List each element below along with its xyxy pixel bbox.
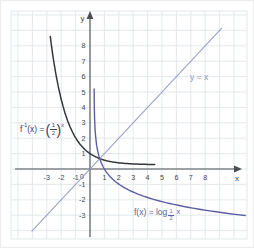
svg-text:x: x [235, 174, 239, 183]
svg-text:-2: -2 [79, 195, 85, 204]
svg-text:-1: -1 [72, 173, 78, 182]
log-base-one-half: 12 [168, 209, 174, 222]
svg-text:3: 3 [82, 118, 86, 127]
label-identity-line: y = x [190, 73, 208, 82]
svg-text:-3: -3 [44, 173, 50, 182]
svg-text:-3: -3 [79, 211, 85, 220]
svg-text:1: 1 [82, 149, 86, 158]
graph-figure: -3-2-11234567887654321-1-2-30xy f-1(x) =… [0, 0, 254, 248]
svg-text:6: 6 [174, 173, 178, 182]
log-argument: x [177, 207, 181, 216]
svg-text:5: 5 [82, 88, 86, 97]
svg-text:8: 8 [82, 41, 86, 50]
svg-text:4: 4 [82, 103, 86, 112]
svg-text:4: 4 [146, 173, 150, 182]
svg-text:-1: -1 [79, 180, 85, 189]
svg-text:6: 6 [82, 72, 86, 81]
svg-text:1: 1 [102, 173, 106, 182]
fraction-denominator: 2 [52, 130, 55, 137]
label-f-inverse: f-1(x) =(12)x [20, 122, 64, 137]
svg-text:8: 8 [203, 173, 207, 182]
log-base-denominator: 2 [170, 216, 173, 222]
svg-text:y: y [81, 14, 85, 23]
svg-text:2: 2 [117, 173, 121, 182]
log-prefix: f(x) = log [134, 207, 167, 217]
label-f-log: f(x) = log12x [134, 206, 180, 219]
f-inverse-equals: (x) = [27, 124, 44, 134]
svg-text:-2: -2 [58, 173, 64, 182]
svg-text:7: 7 [189, 173, 193, 182]
svg-text:5: 5 [160, 173, 164, 182]
svg-text:2: 2 [82, 134, 86, 143]
svg-text:7: 7 [82, 57, 86, 66]
f-inverse-power-x: x [61, 122, 64, 128]
svg-text:3: 3 [131, 173, 135, 182]
